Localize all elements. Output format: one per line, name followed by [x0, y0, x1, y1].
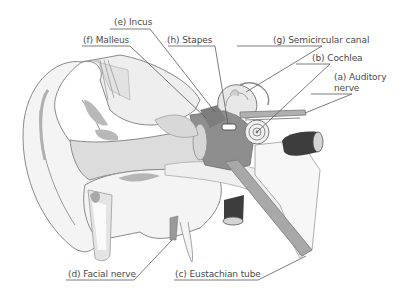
blood-vessel-lower — [223, 195, 244, 225]
label-auditory-nerve: (a) Auditory nerve — [334, 72, 386, 94]
label-text: Incus — [129, 17, 152, 27]
label-semicircular-canal: (g) Semicircular canal — [273, 35, 369, 46]
label-letter: (a) — [334, 72, 346, 82]
label-eustachian-tube: (c) Eustachian tube — [175, 269, 261, 280]
label-text: Auditory — [349, 72, 386, 82]
label-malleus: (f) Malleus — [83, 35, 129, 46]
label-letter: (h) — [167, 35, 179, 45]
label-facial-nerve: (d) Facial nerve — [68, 269, 136, 280]
label-text: Malleus — [96, 35, 130, 45]
label-letter: (g) — [273, 35, 285, 45]
label-text: Eustachian tube — [189, 269, 260, 279]
label-stapes: (h) Stapes — [167, 35, 212, 46]
label-cochlea: (b) Cochlea — [312, 53, 363, 64]
stapes — [222, 124, 236, 130]
label-text: Facial nerve — [83, 269, 136, 279]
label-text: Cochlea — [327, 53, 362, 63]
label-incus: (e) Incus — [114, 17, 152, 28]
label-text: Semicircular canal — [288, 35, 369, 45]
label-letter: (e) — [114, 17, 126, 27]
ear-diagram: (e) Incus (f) Malleus (h) Stapes (g) Sem… — [0, 0, 407, 299]
label-letter: (d) — [68, 269, 80, 279]
label-text-line2: nerve — [334, 83, 386, 94]
label-text: Stapes — [182, 35, 212, 45]
label-letter: (c) — [175, 269, 187, 279]
blood-vessel-right — [282, 132, 323, 156]
label-letter: (b) — [312, 53, 324, 63]
label-letter: (f) — [83, 35, 93, 45]
